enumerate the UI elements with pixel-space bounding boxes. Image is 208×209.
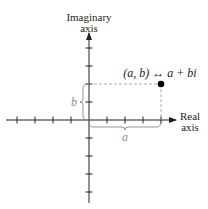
imaginary-part-label: b	[71, 95, 77, 109]
complex-point	[158, 81, 165, 88]
point-label: (a, b) ↔ a + bi	[123, 66, 196, 80]
imaginary-axis-label-line2: axis	[80, 22, 98, 34]
complex-plane-diagram: Imaginary axis Real axis (a, b) ↔ a + bi…	[0, 0, 208, 209]
real-axis-label-line2: axis	[181, 121, 199, 133]
real-part-label: a	[122, 130, 128, 144]
